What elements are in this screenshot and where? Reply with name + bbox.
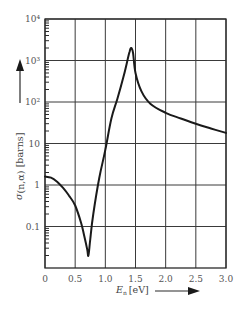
y-tick-label: 10³: [25, 56, 40, 66]
x-tick-label: 0: [42, 274, 48, 284]
y-tick-label: 10⁴: [25, 14, 40, 24]
x-axis-arrow-icon: [155, 287, 200, 295]
cross-section-chart: 00.51.01.52.02.53.0 0.111010²10³10⁴ σ(n,…: [0, 0, 240, 314]
y-tick-label: 10: [29, 139, 41, 149]
y-axis-arrow-icon: [16, 59, 24, 103]
x-tick-label: 2.5: [189, 274, 204, 284]
x-tick-label: 3.0: [219, 274, 234, 284]
y-axis-label: σ(n,α): [13, 171, 26, 200]
x-tick-labels: 00.51.01.52.02.53.0: [42, 274, 233, 284]
svg-text:σ(n,α): σ(n,α): [13, 171, 26, 200]
x-tick-label: 1.5: [128, 274, 143, 284]
x-tick-label: 2.0: [159, 274, 174, 284]
grid: [45, 19, 226, 268]
y-tick-labels: 0.111010²10³10⁴: [25, 14, 40, 232]
y-tick-label: 1: [34, 180, 40, 190]
svg-text:[barns]: [barns]: [14, 133, 25, 168]
x-tick-label: 0.5: [68, 274, 83, 284]
x-axis-label: En[eV]: [115, 284, 149, 296]
y-tick-label: 0.1: [26, 222, 40, 232]
x-tick-label: 1.0: [98, 274, 113, 284]
y-axis-unit: [barns]: [14, 133, 25, 168]
y-tick-label: 10²: [25, 97, 40, 107]
